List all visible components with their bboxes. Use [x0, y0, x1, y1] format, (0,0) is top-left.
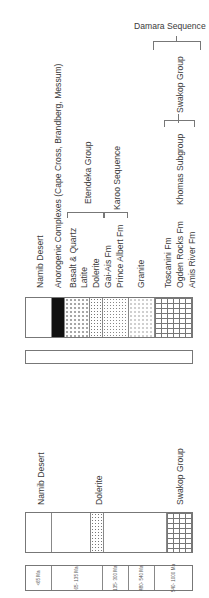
label-gai-ais: Gai-Ais Fm	[104, 245, 113, 288]
lower-segment-dolerite	[91, 513, 104, 552]
segment-dolerite	[90, 298, 103, 337]
lower-segment-blank-2	[104, 513, 167, 552]
label-latite: Latite	[80, 267, 89, 288]
label-ogden-rocks: Ogden Rocks Fm	[176, 221, 185, 288]
karoo-sequence-label: Karoo Sequence	[113, 146, 122, 210]
age-cell: 540- 1000 Ma	[155, 566, 192, 590]
label-dolerite: Dolerite	[92, 258, 101, 288]
label-prince-albert: Prince Albert Fm	[116, 224, 125, 288]
age-label: 135- 300 Ma	[113, 565, 118, 590]
khomas-subgroup-label: Khomas Subgroup	[176, 134, 185, 205]
age-label: <65 Ma	[36, 570, 41, 585]
label-granite: Granite	[137, 260, 146, 288]
age-label: 540- 1000 Ma	[171, 564, 176, 592]
etendeka-bracket	[67, 212, 104, 218]
age-cell: 480- 540 Ma	[129, 566, 155, 590]
swakop-group-label: Swakop Group	[176, 56, 185, 113]
label-namib-desert: Namib Desert	[36, 235, 45, 288]
segment-basalt-latite	[65, 298, 90, 337]
segment-gai-ais-prince-albert	[103, 298, 129, 337]
age-cell: 135- 300 Ma	[103, 566, 129, 590]
lower-label-swakop-group: Swakop Group	[176, 448, 185, 505]
label-amis-river: Amis River Fm	[188, 232, 197, 288]
etendeka-group-label: Etendeka Group	[84, 141, 93, 204]
lower-segment-namib	[26, 513, 52, 552]
lower-stratigraphic-column	[25, 512, 193, 553]
damara-bracket	[153, 41, 201, 50]
upper-stratigraphic-column	[25, 297, 193, 338]
segment-granite	[129, 298, 155, 337]
lower-label-namib-desert: Namib Desert	[37, 452, 46, 505]
age-cell: <65 Ma	[26, 566, 52, 590]
label-anorogenic-complexes: Anorogenic Complexes (Cape Cross, Brandb…	[54, 64, 63, 289]
karoo-bracket	[104, 212, 128, 218]
age-label: 480- 540 Ma	[139, 565, 144, 590]
age-cell: 65- 135 Ma	[52, 566, 103, 590]
label-toscanini: Toscanini Fm	[164, 237, 173, 288]
damara-bracket-tick	[176, 36, 177, 42]
lower-segment-swakop	[167, 513, 192, 552]
separator-box	[25, 350, 193, 364]
age-label: 65- 135 Ma	[75, 567, 80, 590]
khomas-bracket	[164, 120, 195, 127]
segment-namib-desert	[26, 298, 52, 337]
lower-segment-blank-1	[52, 513, 91, 552]
lower-label-dolerite: Dolerite	[95, 475, 104, 505]
segment-anorogenic	[52, 298, 65, 337]
damara-sequence-label: Damara Sequence	[134, 22, 206, 31]
segment-swakop	[155, 298, 192, 337]
age-scale: <65 Ma 65- 135 Ma 135- 300 Ma 480- 540 M…	[25, 565, 193, 591]
label-basalt-quartz: Basalt & Quartz	[69, 228, 78, 288]
